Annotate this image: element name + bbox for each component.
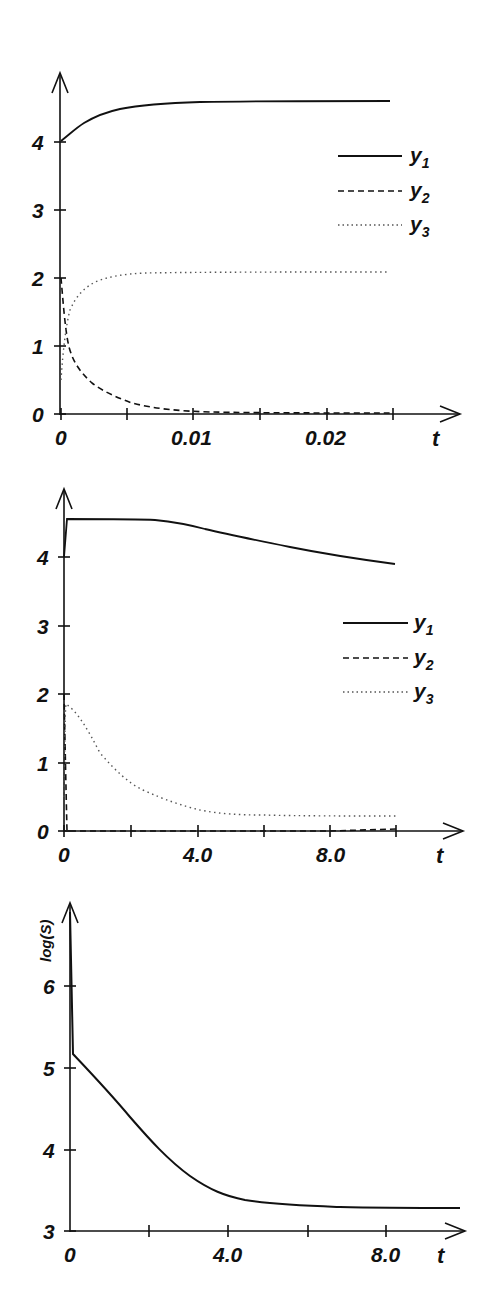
x-tick-label: 0 [55, 426, 67, 449]
legend: y1 y2 y3 [338, 143, 430, 240]
series [61, 101, 390, 413]
y-tick-label: 2 [36, 683, 49, 706]
series-y1-line [61, 101, 390, 141]
x-axis-label: t [432, 426, 441, 451]
x-axis [70, 1223, 465, 1239]
x-tick-labels: 0 0.01 0.02 t [55, 426, 441, 451]
y-axis-label: log(S) [37, 920, 54, 963]
chart-panel-3: log(S) 3 4 5 6 0 4.0 8.0 t [37, 903, 465, 1268]
y-tick-label: 1 [37, 752, 49, 775]
series [70, 912, 460, 1208]
legend-y3-label: y3 [413, 679, 434, 707]
y-tick-label: 2 [31, 267, 44, 290]
x-tick-label: 0.01 [171, 426, 212, 449]
y-axis [52, 73, 68, 415]
legend-y1-label: y1 [409, 143, 430, 171]
x-tick-label: 8.0 [371, 1243, 401, 1266]
x-tick-label: 8.0 [316, 843, 346, 866]
x-axis [60, 406, 460, 422]
x-axis-label: t [437, 1243, 446, 1268]
legend-y1-label: y1 [413, 610, 434, 638]
chart-panel-2: 0 1 2 3 4 0 4.0 8.0 t y1 y2 y3 [36, 489, 463, 868]
series-y2-line [64, 694, 396, 831]
x-tick-label: 0 [58, 843, 70, 866]
figure: 0 1 2 3 4 0 0.01 0.02 t y1 y2 y3 [0, 0, 495, 1295]
series-logS-line [70, 912, 460, 1208]
x-tick-labels: 0 4.0 8.0 t [58, 843, 445, 868]
y-tick-label: 6 [43, 975, 55, 998]
y-tick-labels: 0 1 2 3 4 [36, 546, 49, 843]
y-tick-label: 3 [43, 1220, 55, 1243]
y-tick-label: 4 [31, 131, 44, 154]
y-tick-label: 1 [32, 335, 44, 358]
legend-y2-label: y2 [413, 645, 434, 673]
legend: y1 y2 y3 [343, 610, 434, 707]
x-tick-label: 4.0 [212, 1243, 243, 1266]
y-tick-label: 3 [37, 615, 49, 638]
x-tick-labels: 0 4.0 8.0 t [64, 1243, 446, 1268]
y-tick-label: 4 [36, 546, 49, 569]
series-y3-line [61, 272, 390, 380]
y-tick-labels: 3 4 5 6 [42, 975, 55, 1243]
y-tick-label: 3 [32, 199, 44, 222]
x-axis-label: t [436, 843, 445, 868]
x-tick-label: 0.02 [305, 426, 346, 449]
series-y3-line [64, 704, 396, 816]
x-tick-label: 4.0 [182, 843, 213, 866]
y-tick-labels: 0 1 2 3 4 [31, 131, 44, 426]
series [64, 519, 396, 831]
y-tick-label: 5 [43, 1057, 55, 1080]
x-tick-label: 0 [64, 1243, 76, 1266]
series-y2-line [61, 278, 390, 413]
y-tick-label: 4 [42, 1139, 55, 1162]
chart-panel-1: 0 1 2 3 4 0 0.01 0.02 t y1 y2 y3 [31, 73, 460, 451]
legend-y3-label: y3 [409, 212, 430, 240]
y-tick-label: 0 [37, 820, 49, 843]
y-tick-label: 0 [32, 403, 44, 426]
legend-y2-label: y2 [409, 178, 430, 206]
series-y1-line [64, 519, 395, 564]
